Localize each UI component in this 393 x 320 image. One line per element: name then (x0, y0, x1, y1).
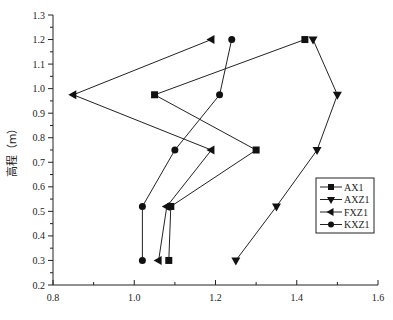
triangle-left-marker-icon (154, 256, 162, 265)
y-tick-label: 0.5 (33, 206, 46, 217)
series-line (142, 40, 231, 261)
series-fxz1 (68, 35, 214, 265)
x-tick-label: 1.6 (372, 292, 385, 303)
triangle-down-marker-icon (333, 92, 342, 100)
legend: AX1AXZ1FXZ1KXZ1 (316, 178, 374, 233)
y-tick-label: 0.3 (33, 255, 46, 266)
triangle-left-marker-icon (162, 202, 170, 211)
triangle-left-marker-icon (68, 90, 76, 99)
legend-label: FXZ1 (344, 207, 368, 218)
triangle-down-marker-icon (231, 257, 240, 265)
y-tick-label: 0.8 (33, 132, 46, 143)
legend-label: AX1 (344, 182, 363, 193)
y-tick-label: 0.2 (33, 280, 46, 291)
x-tick-label: 0.8 (47, 292, 60, 303)
triangle-down-marker-icon (309, 37, 318, 45)
y-tick-label: 0.9 (33, 108, 46, 119)
circle-marker-icon (171, 147, 178, 154)
y-tick-label: 1.1 (33, 59, 46, 70)
elevation-line-chart: 0.81.01.21.41.60.20.30.40.50.60.70.80.91… (0, 0, 393, 320)
x-tick-label: 1.4 (291, 292, 304, 303)
triangle-left-marker-icon (206, 35, 214, 44)
y-tick-label: 0.6 (33, 181, 46, 192)
square-marker-icon (328, 184, 334, 190)
y-tick-label: 0.7 (33, 157, 46, 168)
square-marker-icon (301, 36, 308, 43)
y-axis-title: 高程（m） (5, 123, 19, 178)
y-tick-label: 0.4 (33, 230, 46, 241)
square-marker-icon (151, 91, 158, 98)
y-tick-label: 1.2 (33, 34, 46, 45)
y-tick-label: 1.3 (33, 10, 46, 21)
circle-marker-icon (139, 257, 146, 264)
y-tick-label: 1.0 (33, 83, 46, 94)
x-tick-label: 1.0 (128, 292, 141, 303)
circle-marker-icon (216, 91, 223, 98)
axes: 0.81.01.21.41.60.20.30.40.50.60.70.80.91… (33, 10, 385, 304)
circle-marker-icon (228, 36, 235, 43)
circle-marker-icon (328, 222, 334, 228)
series-layer (68, 35, 342, 265)
square-marker-icon (253, 147, 260, 154)
circle-marker-icon (139, 203, 146, 210)
square-marker-icon (165, 257, 172, 264)
x-tick-label: 1.2 (209, 292, 222, 303)
legend-label: AXZ1 (344, 194, 370, 205)
legend-label: KXZ1 (344, 219, 370, 230)
triangle-left-marker-icon (206, 146, 214, 155)
